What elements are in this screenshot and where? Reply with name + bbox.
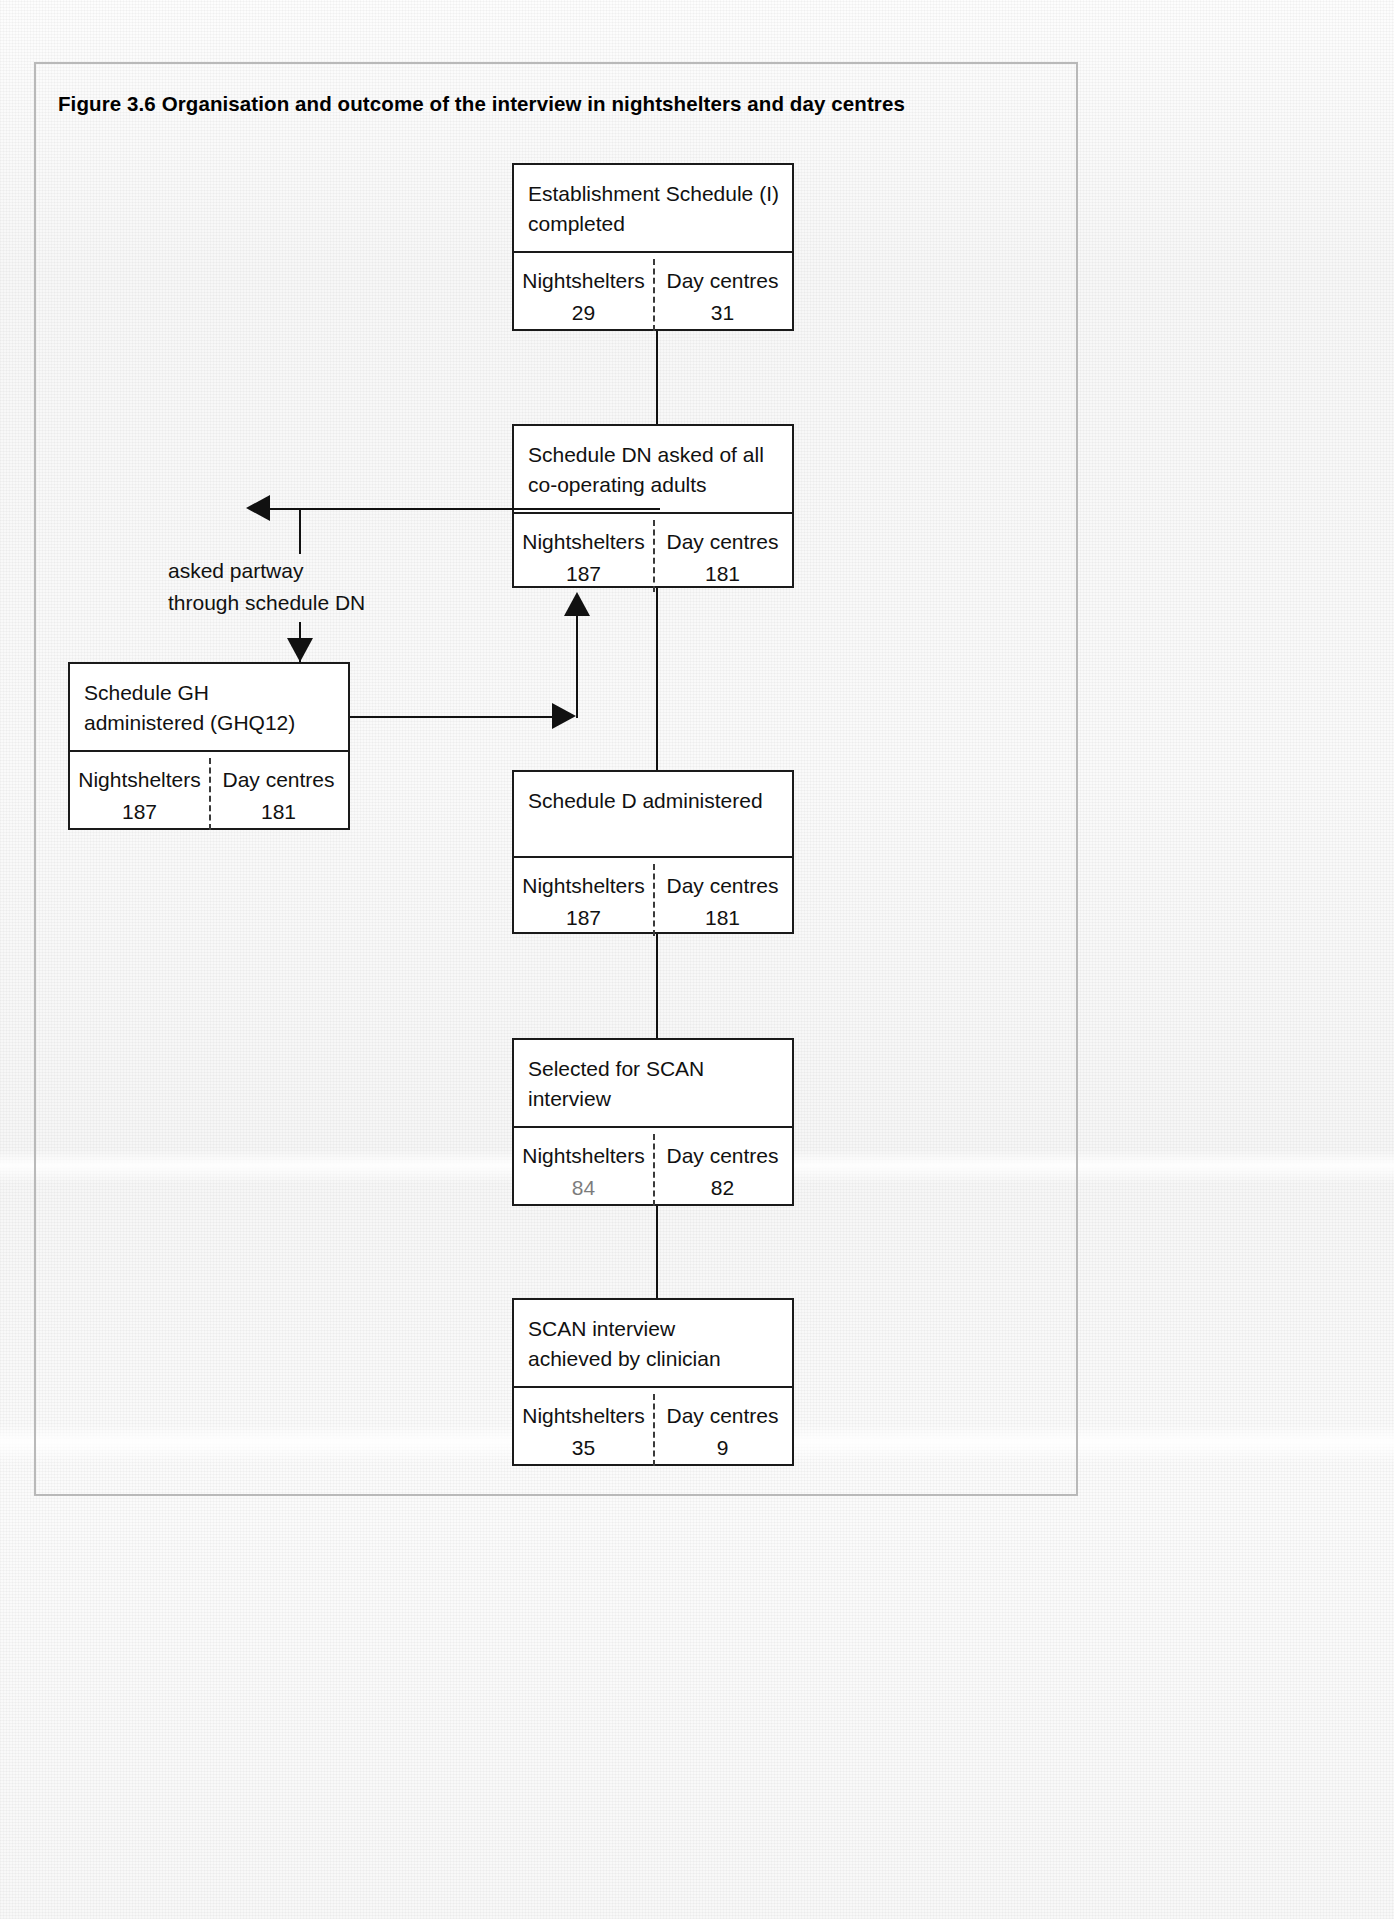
box-selected-for-scan-heading: Selected for SCAN interview	[514, 1040, 792, 1126]
stat-cell-nightshelters: Nightshelters 187	[514, 858, 653, 942]
stat-label-day-centres: Day centres	[666, 1404, 778, 1427]
stat-label-nightshelters: Nightshelters	[522, 874, 645, 897]
heading-line-1: SCAN interview	[528, 1317, 675, 1340]
stat-cell-nightshelters: Nightshelters 84	[514, 1128, 653, 1212]
stat-row-scan-interview-achieved: Nightshelters 35 Day centres 9	[514, 1388, 792, 1472]
stat-value-nightshelters: 29	[514, 301, 653, 325]
stat-value-nightshelters: 187	[514, 906, 653, 930]
box-schedule-dn-heading: Schedule DN asked of all co-operating ad…	[514, 426, 792, 512]
heading-line-1: Selected for SCAN	[528, 1057, 704, 1080]
stat-label-day-centres: Day centres	[666, 269, 778, 292]
connector-schedule-d-to-scan-selection	[656, 934, 658, 1038]
connector-gh-return-horizontal	[350, 716, 554, 718]
stat-separator-dashed	[209, 758, 211, 830]
stat-value-nightshelters: 84	[514, 1176, 653, 1200]
heading-line-2: co-operating adults	[528, 470, 792, 500]
stat-value-day-centres: 181	[653, 562, 792, 586]
connector-establishment-to-dn	[656, 331, 658, 424]
stat-row-selected-for-scan: Nightshelters 84 Day centres 82	[514, 1128, 792, 1212]
stat-cell-day-centres: Day centres 82	[653, 1128, 792, 1212]
box-schedule-d: Schedule D administered Nightshelters 18…	[512, 770, 794, 934]
connector-partway-vertical-upper	[299, 508, 301, 554]
connector-scan-selection-to-achieved	[656, 1206, 658, 1302]
heading-line-2: interview	[528, 1084, 792, 1114]
figure-title: Figure 3.6 Organisation and outcome of t…	[58, 92, 905, 116]
stat-label-nightshelters: Nightshelters	[522, 1404, 645, 1427]
box-schedule-dn: Schedule DN asked of all co-operating ad…	[512, 424, 794, 588]
annotation-asked-partway: asked partway through schedule DN	[168, 555, 468, 618]
arrow-left-to-partway	[246, 495, 270, 521]
arrow-right-return-corner	[552, 703, 576, 729]
stat-cell-nightshelters: Nightshelters 35	[514, 1388, 653, 1472]
stat-value-day-centres: 181	[653, 906, 792, 930]
stat-cell-day-centres: Day centres 181	[209, 752, 348, 836]
box-selected-for-scan: Selected for SCAN interview Nightshelter…	[512, 1038, 794, 1206]
stat-row-schedule-gh: Nightshelters 187 Day centres 181	[70, 752, 348, 836]
stat-value-day-centres: 9	[653, 1436, 792, 1460]
stat-value-day-centres: 181	[209, 800, 348, 824]
stat-row-schedule-dn: Nightshelters 187 Day centres 181	[514, 514, 792, 598]
box-establishment-schedule: Establishment Schedule (I) completed Nig…	[512, 163, 794, 331]
stat-row-establishment-schedule: Nightshelters 29 Day centres 31	[514, 253, 792, 337]
stat-row-schedule-d: Nightshelters 187 Day centres 181	[514, 858, 792, 942]
heading-line-1: Schedule GH	[84, 681, 209, 704]
stat-value-nightshelters: 187	[514, 562, 653, 586]
stat-cell-day-centres: Day centres 181	[653, 514, 792, 598]
stat-cell-day-centres: Day centres 9	[653, 1388, 792, 1472]
stat-separator-dashed	[653, 1394, 655, 1466]
stat-label-day-centres: Day centres	[666, 530, 778, 553]
arrow-down-to-schedule-gh	[287, 638, 313, 662]
stat-cell-nightshelters: Nightshelters 187	[514, 514, 653, 598]
stat-value-nightshelters: 35	[514, 1436, 653, 1460]
annotation-line-2: through schedule DN	[168, 591, 365, 614]
stat-separator-dashed	[653, 520, 655, 592]
stat-cell-nightshelters: Nightshelters 29	[514, 253, 653, 337]
box-schedule-gh: Schedule GH administered (GHQ12) Nightsh…	[68, 662, 350, 830]
stat-separator-dashed	[653, 259, 655, 331]
annotation-line-1: asked partway	[168, 559, 303, 582]
stat-label-day-centres: Day centres	[666, 874, 778, 897]
stat-cell-day-centres: Day centres 181	[653, 858, 792, 942]
stat-value-day-centres: 31	[653, 301, 792, 325]
heading-line-1: Schedule D administered	[528, 789, 763, 812]
heading-line-1: Establishment Schedule (I)	[528, 182, 779, 205]
heading-line-2: completed	[528, 209, 792, 239]
box-schedule-d-heading: Schedule D administered	[514, 772, 792, 828]
box-establishment-schedule-heading: Establishment Schedule (I) completed	[514, 165, 792, 251]
stat-value-day-centres: 82	[653, 1176, 792, 1200]
heading-line-1: Schedule DN asked of all	[528, 443, 764, 466]
heading-line-2: achieved by clinician	[528, 1344, 792, 1374]
box-schedule-gh-heading: Schedule GH administered (GHQ12)	[70, 664, 348, 750]
stat-separator-dashed	[653, 1134, 655, 1206]
stat-label-day-centres: Day centres	[666, 1144, 778, 1167]
stat-label-nightshelters: Nightshelters	[522, 1144, 645, 1167]
connector-dn-to-schedule-d	[656, 588, 658, 778]
arrow-up-to-schedule-dn	[564, 592, 590, 616]
stat-label-day-centres: Day centres	[222, 768, 334, 791]
box-scan-interview-achieved-heading: SCAN interview achieved by clinician	[514, 1300, 792, 1386]
stat-label-nightshelters: Nightshelters	[78, 768, 201, 791]
connector-dn-branch-horizontal	[270, 508, 660, 510]
figure-page: Figure 3.6 Organisation and outcome of t…	[0, 0, 1394, 1919]
heading-line-2: administered (GHQ12)	[84, 708, 348, 738]
stat-cell-day-centres: Day centres 31	[653, 253, 792, 337]
stat-separator-dashed	[653, 864, 655, 936]
stat-value-nightshelters: 187	[70, 800, 209, 824]
stat-label-nightshelters: Nightshelters	[522, 269, 645, 292]
box-scan-interview-achieved: SCAN interview achieved by clinician Nig…	[512, 1298, 794, 1466]
stat-label-nightshelters: Nightshelters	[522, 530, 645, 553]
connector-gh-return-vertical	[576, 616, 578, 718]
stat-cell-nightshelters: Nightshelters 187	[70, 752, 209, 836]
